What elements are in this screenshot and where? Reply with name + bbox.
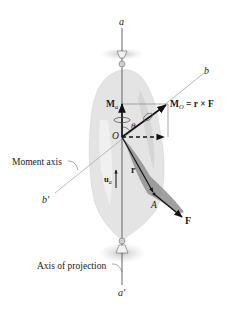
theta-label: θ xyxy=(131,121,136,131)
moment-axis-caption: Moment axis xyxy=(12,157,62,167)
force-label: F xyxy=(185,215,191,226)
projection-axis-leader xyxy=(112,264,122,272)
point-A-label: A xyxy=(150,200,157,210)
moment-axis-start-label: b' xyxy=(42,194,50,205)
moment-axis-leader xyxy=(68,161,78,170)
MO-label: MO = r × F xyxy=(170,99,214,110)
projection-axis-caption: Axis of projection xyxy=(37,261,106,271)
axis-top-label: a xyxy=(119,16,124,27)
moment-axis-end-label: b xyxy=(204,65,209,76)
point-A-dot xyxy=(153,193,156,196)
moment-about-axis-diagram: a a' b b' Moment axis Axis of projection… xyxy=(0,0,228,313)
axis-bottom-label: a' xyxy=(118,287,126,298)
origin-label: O xyxy=(112,131,119,141)
